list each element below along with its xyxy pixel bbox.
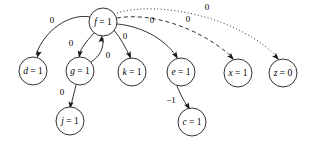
edge-label-f-x: 0 bbox=[186, 14, 191, 24]
edge-label-f-d: 0 bbox=[50, 15, 55, 25]
node-label-c: c = 1 bbox=[182, 117, 201, 127]
node-j[interactable]: j = 1 bbox=[56, 107, 84, 135]
edges-layer bbox=[36, 9, 277, 108]
edge-g-f bbox=[91, 38, 103, 62]
node-label-x: x = 1 bbox=[227, 68, 247, 78]
node-k[interactable]: k = 1 bbox=[118, 58, 146, 86]
edge-f-x bbox=[117, 17, 232, 57]
node-f[interactable]: f = 1 bbox=[89, 8, 117, 36]
node-label-k: k = 1 bbox=[122, 67, 141, 77]
node-label-e: e = 1 bbox=[171, 67, 190, 77]
node-x[interactable]: x = 1 bbox=[224, 59, 252, 87]
edge-label-f-z: 0 bbox=[205, 2, 210, 12]
edge-label-f-e: 0 bbox=[150, 15, 155, 25]
node-label-z: z = 0 bbox=[273, 68, 293, 78]
edge-label-f-k: 0 bbox=[123, 31, 128, 41]
graph-canvas: 000000−100 f = 1d = 1g = 1k = 1e = 1x = … bbox=[0, 0, 311, 142]
edge-f-z bbox=[117, 9, 277, 57]
node-z[interactable]: z = 0 bbox=[269, 59, 297, 87]
node-label-g: g = 1 bbox=[70, 66, 90, 76]
edge-label-f-g: 0 bbox=[69, 38, 74, 48]
edge-label-g-f: 0 bbox=[106, 50, 111, 60]
node-label-d: d = 1 bbox=[23, 66, 43, 76]
node-label-f: f = 1 bbox=[94, 17, 112, 27]
nodes-layer: f = 1d = 1g = 1k = 1e = 1x = 1z = 0j = 1… bbox=[19, 8, 297, 136]
node-g[interactable]: g = 1 bbox=[66, 57, 94, 85]
graph-diagram: 000000−100 f = 1d = 1g = 1k = 1e = 1x = … bbox=[0, 0, 311, 142]
node-label-j: j = 1 bbox=[59, 116, 79, 126]
edge-label-e-c: −1 bbox=[166, 95, 176, 105]
node-d[interactable]: d = 1 bbox=[19, 57, 47, 85]
edge-label-g-j: 0 bbox=[60, 87, 65, 97]
node-c[interactable]: c = 1 bbox=[178, 108, 206, 136]
node-e[interactable]: e = 1 bbox=[167, 58, 195, 86]
